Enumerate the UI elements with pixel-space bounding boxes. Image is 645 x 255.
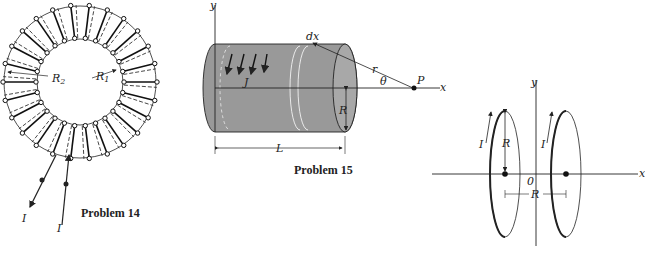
current-in-label: I — [56, 222, 62, 235]
winding-loop-end — [53, 44, 57, 48]
winding-loop-end — [72, 123, 76, 127]
current-left-label: I — [478, 138, 484, 151]
x-axis-label: x — [639, 167, 645, 180]
y-axis-label: y — [209, 0, 217, 12]
length-label: L — [275, 142, 283, 155]
winding-turn — [5, 64, 37, 72]
inner-radius-label: R1 — [95, 70, 109, 84]
winding-back — [32, 116, 53, 142]
winding-loop-end — [83, 36, 87, 40]
winding-turn — [71, 6, 75, 39]
winding-back — [107, 22, 128, 48]
winding-loop-end — [34, 143, 38, 147]
winding-loop-end — [146, 44, 150, 48]
winding-loop-end — [146, 116, 150, 120]
winding-loop-end — [45, 51, 49, 55]
winding-turn — [105, 118, 124, 145]
winding-loop-end — [122, 16, 126, 20]
toroid-figure: R2 R1 I I Problem 14 — [1, 3, 159, 235]
winding-turn — [123, 93, 155, 101]
loop-radius-label: R — [501, 137, 510, 150]
radius-label: R — [338, 104, 347, 117]
winding-turn — [85, 6, 89, 39]
current-right-label: I — [540, 138, 546, 151]
winding-turn — [36, 19, 55, 46]
winding-turn — [22, 111, 47, 133]
winding-loop-end — [135, 29, 139, 33]
element-label: dx — [306, 30, 320, 43]
figure-canvas: R2 R1 I I Problem 14 y x J dx r θ P — [0, 0, 645, 255]
y-axis-label: y — [530, 76, 538, 89]
problem-15-caption: Problem 15 — [294, 163, 353, 177]
outer-radius-arrow — [8, 72, 48, 76]
winding-back — [26, 27, 49, 51]
winding-loop-end — [20, 131, 24, 135]
current-density-label: J — [242, 76, 249, 89]
lead-terminal-in — [64, 182, 69, 187]
winding-loop-end — [105, 152, 109, 156]
winding-loop-end — [3, 61, 7, 65]
winding-loop-end — [45, 109, 49, 113]
winding-loop-end — [10, 116, 14, 120]
winding-loop-end — [121, 69, 125, 73]
winding-loop-end — [93, 39, 97, 43]
winding-loop-end — [1, 80, 5, 84]
winding-loop-end — [87, 3, 91, 7]
lead-wire-in — [62, 155, 69, 225]
outer-radius-label: R2 — [51, 72, 65, 86]
winding-loop-end — [20, 29, 24, 33]
current-arrow-right — [547, 112, 552, 143]
winding-back — [111, 113, 134, 137]
angle-label: θ — [380, 75, 387, 88]
winding-back — [3, 77, 36, 79]
current-out-label: I — [21, 212, 27, 225]
winding-loop-end — [10, 44, 14, 48]
winding-loop-end — [72, 36, 76, 40]
winding-loop-end — [111, 51, 115, 55]
winding-loop-end — [111, 109, 115, 113]
winding-loop-end — [69, 3, 73, 7]
winding-loop-end — [62, 121, 66, 125]
winding-loop-end — [135, 131, 139, 135]
distance-label: r — [372, 63, 378, 76]
winding-loop-end — [103, 44, 107, 48]
winding-turn — [85, 126, 89, 159]
winding-loop-end — [35, 90, 39, 94]
cylinder-figure: y x J dx r θ P R L Problem 15 — [203, 0, 447, 177]
winding-loop-end — [83, 123, 87, 127]
winding-turn — [113, 111, 138, 133]
winding-back — [82, 126, 84, 159]
winding-loop-end — [153, 98, 157, 102]
point-P — [412, 86, 417, 91]
winding-loop-end — [103, 116, 107, 120]
winding-loop-end — [3, 98, 7, 102]
winding-loop-end — [50, 8, 54, 12]
x-axis-label: x — [440, 81, 447, 94]
winding-turn — [71, 126, 75, 159]
current-arrow-left — [486, 112, 491, 143]
toroid-windings — [1, 3, 159, 160]
winding-loop-end — [122, 80, 126, 84]
winding-turn — [113, 31, 138, 53]
winding-loop-end — [153, 61, 157, 65]
winding-back — [124, 85, 157, 87]
winding-loop-end — [121, 90, 125, 94]
winding-turn — [22, 31, 47, 53]
right-loop-center — [563, 171, 569, 177]
winding-loop-end — [39, 100, 43, 104]
point-label: P — [416, 74, 425, 87]
winding-loop-end — [34, 80, 38, 84]
winding-loop-end — [93, 121, 97, 125]
winding-loop-end — [50, 152, 54, 156]
winding-loop-end — [39, 59, 43, 63]
winding-loop-end — [34, 16, 38, 20]
winding-loop-end — [35, 69, 39, 73]
left-loop-center — [502, 171, 508, 177]
problem-14-caption: Problem 14 — [81, 206, 140, 220]
lead-terminal-out — [40, 178, 45, 183]
winding-loop-end — [62, 39, 66, 43]
winding-back — [76, 5, 78, 38]
winding-loop-end — [155, 80, 159, 84]
separation-label: R — [530, 188, 539, 201]
winding-loop-end — [117, 59, 121, 63]
